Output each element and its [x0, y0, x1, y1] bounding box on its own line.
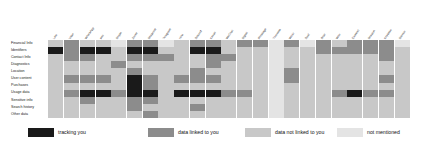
heatmap-cell: [127, 75, 142, 82]
heatmap-cell: [206, 40, 221, 47]
legend: tracking youdata linked to youdata not l…: [0, 122, 430, 142]
row-header-axis: Financial InfoIdentifiersContact InfoDia…: [0, 40, 48, 118]
heatmap-cell: [363, 83, 378, 90]
column-label-8: Hike: [179, 33, 185, 40]
heatmap-cell: [190, 47, 205, 54]
heatmap-cell: [363, 90, 378, 97]
heatmap-cell: [111, 104, 126, 111]
heatmap-cell: [300, 68, 315, 75]
heatmap-cell: [221, 111, 236, 118]
heatmap-cell: [158, 111, 173, 118]
row-label-1: Identifiers: [0, 47, 48, 54]
heatmap-cell: [347, 104, 362, 111]
row-label-3: Diagnostics: [0, 61, 48, 68]
heatmap-cell: [111, 40, 126, 47]
heatmap-cell: [332, 47, 347, 54]
heatmap-cell: [143, 47, 158, 54]
row-label-8: Sensitive info: [0, 97, 48, 104]
heatmap-cell: [96, 47, 111, 54]
heatmap-cell: [64, 111, 79, 118]
heatmap-cell: [269, 83, 284, 90]
heatmap-cell: [347, 111, 362, 118]
heatmap-cell: [379, 97, 394, 104]
heatmap-cell: [253, 61, 268, 68]
heatmap-cell: [379, 68, 394, 75]
legend-item-2: data not linked to you: [245, 122, 324, 142]
heatmap-cell: [284, 47, 299, 54]
heatmap-cell: [332, 97, 347, 104]
legend-item-3: not mentioned: [337, 122, 400, 142]
heatmap-cell: [64, 61, 79, 68]
heatmap-cell: [269, 90, 284, 97]
heatmap-cell: [64, 104, 79, 111]
heatmap-cell: [284, 104, 299, 111]
heatmap-cell: [253, 47, 268, 54]
heatmap-cell: [143, 54, 158, 61]
heatmap-cell: [96, 111, 111, 118]
row-label-2: Contact Info: [0, 54, 48, 61]
heatmap-cell: [316, 90, 331, 97]
heatmap-cell: [221, 90, 236, 97]
heatmap-cell: [127, 61, 142, 68]
heatmap-cell: [190, 61, 205, 68]
heatmap-cell: [127, 83, 142, 90]
heatmap-cell: [48, 68, 63, 75]
heatmap-cell: [221, 47, 236, 54]
heatmap-cell: [64, 97, 79, 104]
heatmap-row: [48, 68, 410, 75]
heatmap-cell: [48, 111, 63, 118]
heatmap-cell: [284, 54, 299, 61]
column-label-20: Session: [367, 30, 376, 40]
heatmap-cell: [379, 61, 394, 68]
heatmap-cell: [96, 75, 111, 82]
heatmap-cell: [395, 90, 410, 97]
row-label-5: User content: [0, 75, 48, 82]
heatmap-cell: [111, 47, 126, 54]
heatmap-cell: [80, 75, 95, 82]
heatmap-cell: [48, 61, 63, 68]
heatmap-cell: [253, 97, 268, 104]
heatmap-cell: [253, 54, 268, 61]
heatmap-cell: [96, 40, 111, 47]
heatmap-cell: [363, 47, 378, 54]
heatmap-cell: [111, 111, 126, 118]
heatmap-cell: [237, 111, 252, 118]
column-label-22: Silence: [399, 30, 407, 40]
column-label-21: Keybase: [383, 29, 392, 40]
heatmap-cell: [158, 61, 173, 68]
heatmap-cell: [174, 90, 189, 97]
heatmap-row: [48, 40, 410, 47]
heatmap-cell: [395, 61, 410, 68]
heatmap-cell: [80, 90, 95, 97]
heatmap-cell: [332, 104, 347, 111]
heatmap-cell: [127, 54, 142, 61]
heatmap-cell: [190, 90, 205, 97]
heatmap-cell: [253, 83, 268, 90]
legend-swatch-2: [245, 128, 271, 137]
heatmap-cell: [379, 75, 394, 82]
heatmap-cell: [237, 83, 252, 90]
heatmap-cell: [316, 61, 331, 68]
heatmap-cell: [253, 75, 268, 82]
heatmap-cell: [395, 54, 410, 61]
heatmap-cell: [237, 40, 252, 47]
heatmap-cell: [190, 83, 205, 90]
row-label-10: Other data: [0, 111, 48, 118]
heatmap-cell: [395, 83, 410, 90]
heatmap-cell: [300, 54, 315, 61]
heatmap-cell: [127, 40, 142, 47]
heatmap-cell: [158, 47, 173, 54]
heatmap-cell: [143, 75, 158, 82]
heatmap-cell: [316, 47, 331, 54]
heatmap-cell: [206, 83, 221, 90]
heatmap-cell: [221, 97, 236, 104]
heatmap-cell: [300, 40, 315, 47]
heatmap-cell: [284, 68, 299, 75]
heatmap-cell: [347, 68, 362, 75]
heatmap-cell: [347, 61, 362, 68]
heatmap-cell: [174, 75, 189, 82]
heatmap-cell: [237, 104, 252, 111]
heatmap-cell: [158, 75, 173, 82]
heatmap-cell: [284, 40, 299, 47]
legend-swatch-3: [337, 128, 363, 137]
